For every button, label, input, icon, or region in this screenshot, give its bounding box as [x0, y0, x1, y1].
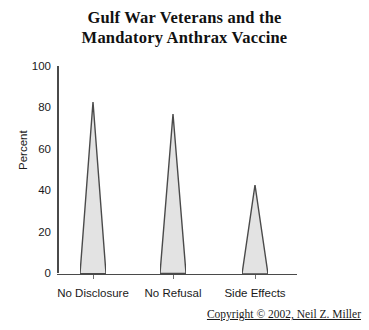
bar-shape-side-effects: [242, 185, 268, 274]
y-tick-label-100: 100: [32, 60, 51, 72]
y-tick-label-40: 40: [38, 184, 51, 196]
x-tick-no-disclosure: [93, 275, 94, 279]
bar-side-effects: [242, 185, 268, 274]
y-axis-title: Percent: [17, 130, 29, 170]
x-category-label-no-disclosure: No Disclosure: [57, 287, 129, 299]
chart-title-line-2: Mandatory Anthrax Vaccine: [0, 28, 369, 48]
y-tick-label-0: 0: [45, 267, 51, 279]
x-category-label-side-effects: Side Effects: [224, 287, 285, 299]
y-tick-label-20: 20: [38, 226, 51, 238]
chart-title: Gulf War Veterans and the Mandatory Anth…: [0, 8, 369, 48]
x-tick-no-refusal: [173, 275, 174, 279]
plot-area: 0 20 40 60 80 100: [57, 66, 297, 275]
chart-title-line-1: Gulf War Veterans and the: [0, 8, 369, 28]
bar-shape-no-refusal: [160, 114, 186, 273]
copyright-notice: Copyright © 2002, Neil Z. Miller: [207, 308, 361, 320]
x-category-label-no-refusal: No Refusal: [145, 287, 202, 299]
y-tick-label-80: 80: [38, 101, 51, 113]
x-tick-side-effects: [255, 275, 256, 279]
y-axis-line: [57, 66, 59, 273]
y-tick-label-60: 60: [38, 143, 51, 155]
chart-figure: Gulf War Veterans and the Mandatory Anth…: [0, 0, 369, 330]
bar-no-refusal: [160, 114, 186, 273]
bar-shape-no-disclosure: [80, 102, 106, 274]
bar-no-disclosure: [80, 102, 106, 274]
